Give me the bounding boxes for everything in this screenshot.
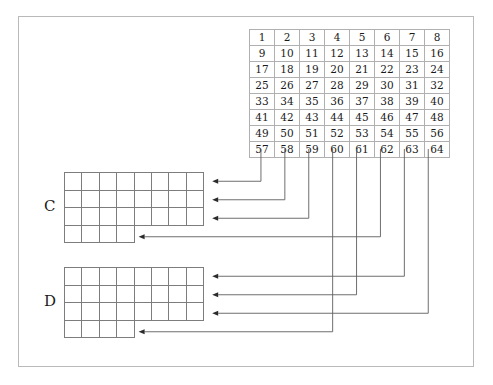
source-cell-12: 12 [325,46,350,62]
source-cell-17: 17 [250,62,275,78]
dest-cell-c-2-4 [116,190,134,209]
dest-cell-d-4-2 [81,320,99,339]
source-cell-61: 61 [350,142,375,158]
dest-row [64,286,204,304]
dest-row [64,191,204,209]
source-cell-45: 45 [350,110,375,126]
source-cell-50: 50 [275,126,300,142]
source-cell-26: 26 [275,78,300,94]
source-cell-58: 58 [275,142,300,158]
dest-row [64,267,204,286]
dest-row [64,208,204,226]
source-cell-51: 51 [300,126,325,142]
source-cell-35: 35 [300,94,325,110]
source-cell-19: 19 [300,62,325,78]
dest-cell-c-3-5 [134,207,152,226]
source-row: 4142434445464748 [250,110,450,126]
dest-cell-c-1-2 [81,172,99,191]
source-cell-53: 53 [350,126,375,142]
dest-cell-c-2-3 [99,190,117,209]
dest-row [64,226,204,244]
source-cell-23: 23 [400,62,425,78]
source-row: 4950515253545556 [250,126,450,142]
source-cell-11: 11 [300,46,325,62]
dest-cell-c-3-1 [64,207,82,226]
dest-cell-d-2-3 [99,285,117,304]
dest-cell-d-2-2 [81,285,99,304]
source-cell-57: 57 [250,142,275,158]
dest-cell-c-4-4 [116,225,134,244]
dest-cell-c-1-6 [151,172,169,191]
dest-cell-c-3-7 [168,207,186,226]
dest-cell-d-3-3 [99,302,117,321]
dest-cell-d-4-3 [99,320,117,339]
source-cell-55: 55 [400,126,425,142]
dest-cell-c-3-4 [116,207,134,226]
source-row: 12345678 [250,30,450,46]
dest-cell-c-2-5 [134,190,152,209]
source-cell-8: 8 [425,30,450,46]
grid-label-d: D [44,292,56,310]
source-cell-27: 27 [300,78,325,94]
source-cell-10: 10 [275,46,300,62]
source-cell-56: 56 [425,126,450,142]
source-cell-13: 13 [350,46,375,62]
source-cell-22: 22 [375,62,400,78]
source-row: 3334353637383940 [250,94,450,110]
dest-cell-d-1-6 [151,267,169,286]
dest-cell-d-3-7 [168,302,186,321]
source-row: 1718192021222324 [250,62,450,78]
dest-cell-d-2-6 [151,285,169,304]
source-cell-2: 2 [275,30,300,46]
dest-cell-d-4-1 [64,320,82,339]
source-cell-60: 60 [325,142,350,158]
source-cell-31: 31 [400,78,425,94]
source-cell-24: 24 [425,62,450,78]
source-cell-39: 39 [400,94,425,110]
source-row: 2526272829303132 [250,78,450,94]
source-cell-6: 6 [375,30,400,46]
source-cell-34: 34 [275,94,300,110]
source-cell-16: 16 [425,46,450,62]
dest-cell-d-3-4 [116,302,134,321]
source-cell-42: 42 [275,110,300,126]
dest-cell-c-1-5 [134,172,152,191]
source-cell-20: 20 [325,62,350,78]
dest-cell-c-1-7 [168,172,186,191]
source-cell-4: 4 [325,30,350,46]
dest-cell-d-3-5 [134,302,152,321]
dest-cell-d-2-5 [134,285,152,304]
dest-cell-d-1-8 [186,267,204,286]
source-row: 5758596061626364 [250,142,450,158]
source-cell-3: 3 [300,30,325,46]
source-cell-48: 48 [425,110,450,126]
source-cell-38: 38 [375,94,400,110]
dest-cell-d-3-6 [151,302,169,321]
source-cell-21: 21 [350,62,375,78]
source-cell-47: 47 [400,110,425,126]
diagram-canvas: 1234567891011121314151617181920212223242… [0,0,493,385]
dest-cell-d-2-7 [168,285,186,304]
source-cell-49: 49 [250,126,275,142]
source-cell-30: 30 [375,78,400,94]
source-cell-59: 59 [300,142,325,158]
source-cell-62: 62 [375,142,400,158]
dest-cell-c-1-4 [116,172,134,191]
dest-cell-c-4-3 [99,225,117,244]
dest-row [64,303,204,321]
dest-cell-d-3-2 [81,302,99,321]
source-cell-25: 25 [250,78,275,94]
dest-cell-c-3-3 [99,207,117,226]
source-cell-1: 1 [250,30,275,46]
source-cell-46: 46 [375,110,400,126]
dest-cell-c-4-1 [64,225,82,244]
dest-cell-c-1-1 [64,172,82,191]
dest-cell-c-4-2 [81,225,99,244]
dest-cell-d-1-3 [99,267,117,286]
dest-cell-d-1-7 [168,267,186,286]
source-cell-9: 9 [250,46,275,62]
source-cell-7: 7 [400,30,425,46]
source-cell-28: 28 [325,78,350,94]
source-cell-63: 63 [400,142,425,158]
dest-cell-c-2-8 [186,190,204,209]
